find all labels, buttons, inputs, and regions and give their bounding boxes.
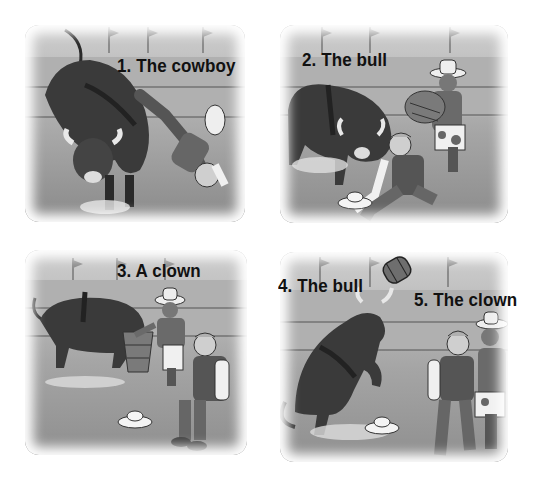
panel-1-caption: 1. The cowboy <box>117 56 235 78</box>
comic-panel-1 <box>25 25 245 222</box>
flying-barrel-icon <box>380 253 414 287</box>
panel-4-caption-clown: 5. The clown <box>414 290 517 312</box>
barrel-icon <box>123 332 153 372</box>
panel-4-caption-bull: 4. The bull <box>278 276 363 298</box>
panel-2-caption: 2. The bull <box>302 50 387 72</box>
barrel-icon <box>405 91 445 123</box>
panel-3-caption: 3. A clown <box>117 261 201 283</box>
panel-1-illustration <box>25 25 245 222</box>
